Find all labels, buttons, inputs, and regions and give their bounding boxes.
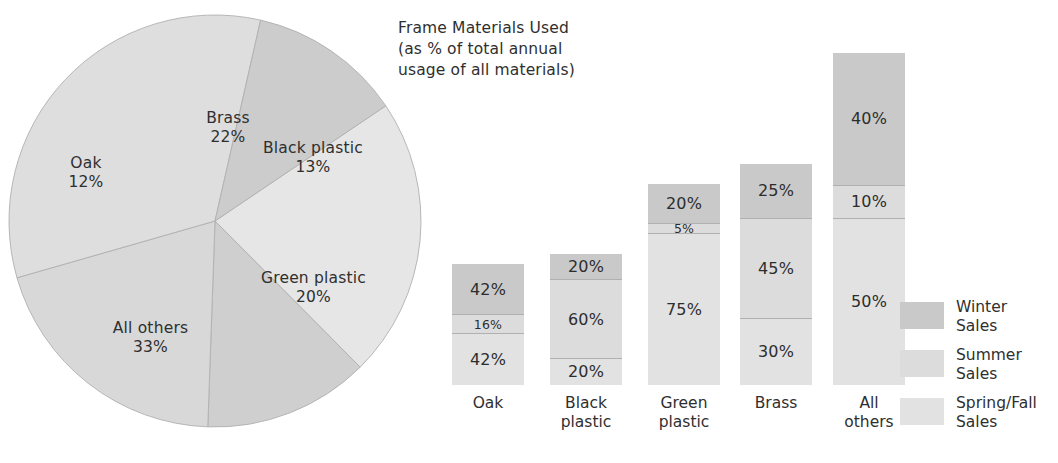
- bar-segment-summer-sales[interactable]: 10%: [833, 186, 905, 219]
- legend-label-springfall: Spring/FallSales: [956, 394, 1037, 432]
- bar-segment-value: 42%: [452, 280, 524, 299]
- legend-item-springfall[interactable]: Spring/FallSales: [900, 396, 1050, 444]
- bar-segment-winter-sales[interactable]: 20%: [550, 254, 622, 280]
- bar-stack: 25%45%30%Brass: [740, 164, 812, 385]
- bar-segment-summer-sales[interactable]: 60%: [550, 280, 622, 358]
- bar-segment-summer-sales[interactable]: 45%: [740, 219, 812, 319]
- bar-segment-value: 42%: [452, 350, 524, 369]
- pie-chart: Brass 22% Black plastic 13% Green plasti…: [8, 14, 422, 428]
- bar-segment-spring-fall-sales[interactable]: 75%: [648, 234, 720, 385]
- bar-segment-value: 30%: [740, 342, 812, 361]
- legend-item-summer[interactable]: SummerSales: [900, 348, 1050, 396]
- chart-title-line-2: (as % of total annual: [398, 39, 668, 60]
- bar-category-label-line: plastic: [638, 413, 730, 432]
- bar-segment-value: 45%: [740, 259, 812, 278]
- bar-segment-value: 25%: [740, 181, 812, 200]
- pie-label-black-plastic: Black plastic 13%: [248, 139, 378, 177]
- pie-label-green-plastic-value: 20%: [246, 288, 381, 307]
- bar-category-label: Oak: [442, 394, 534, 413]
- bar-category-label-line: Green: [638, 394, 730, 413]
- chart-legend: WinterSalesSummerSalesSpring/FallSales: [900, 300, 1050, 444]
- legend-label-line: Spring/Fall: [956, 394, 1037, 413]
- pie-label-oak: Oak 12%: [46, 154, 126, 192]
- chart-canvas: Brass 22% Black plastic 13% Green plasti…: [0, 0, 1058, 463]
- chart-title-line-1: Frame Materials Used: [398, 18, 668, 39]
- legend-label-line: Summer: [956, 346, 1022, 365]
- pie-label-oak-name: Oak: [70, 154, 101, 172]
- bar-stack: 40%10%50%Allothers: [833, 53, 905, 385]
- bar-segment-summer-sales[interactable]: 5%: [648, 224, 720, 234]
- bar-category-label-line: Oak: [442, 394, 534, 413]
- pie-label-all-others: All others 33%: [88, 319, 213, 357]
- bar-category-label-line: Black: [540, 394, 632, 413]
- bar-segment-value: 20%: [648, 194, 720, 213]
- legend-swatch-springfall: [900, 398, 944, 425]
- bar-segment-winter-sales[interactable]: 40%: [833, 53, 905, 186]
- legend-label-line: Sales: [956, 317, 1007, 336]
- pie-label-all-others-name: All others: [113, 319, 189, 337]
- bar-segment-winter-sales[interactable]: 25%: [740, 164, 812, 219]
- bar-segment-spring-fall-sales[interactable]: 30%: [740, 319, 812, 385]
- bar-stack: 20%5%75%Greenplastic: [648, 184, 720, 385]
- legend-swatch-winter: [900, 302, 944, 329]
- bar-segment-value: 50%: [833, 292, 905, 311]
- pie-chart-svg: [8, 14, 422, 428]
- bar-segment-value: 16%: [452, 317, 524, 332]
- bar-segment-value: 60%: [550, 310, 622, 329]
- bar-category-label: Brass: [730, 394, 822, 413]
- bar-category-label: Blackplastic: [540, 394, 632, 432]
- stacked-bar-chart: 42%16%42%Oak20%60%20%Blackplastic20%5%75…: [440, 60, 860, 455]
- pie-label-all-others-value: 33%: [88, 338, 213, 357]
- bar-category-label-line: plastic: [540, 413, 632, 432]
- bar-segment-winter-sales[interactable]: 20%: [648, 184, 720, 224]
- legend-label-summer: SummerSales: [956, 346, 1022, 384]
- legend-label-line: Sales: [956, 365, 1022, 384]
- bar-category-label-line: Brass: [730, 394, 822, 413]
- pie-label-green-plastic-name: Green plastic: [261, 269, 366, 287]
- legend-label-line: Sales: [956, 413, 1037, 432]
- bar-stack: 42%16%42%Oak: [452, 264, 524, 385]
- bar-segment-spring-fall-sales[interactable]: 20%: [550, 359, 622, 385]
- pie-label-green-plastic: Green plastic 20%: [246, 269, 381, 307]
- bar-segment-value: 20%: [550, 362, 622, 381]
- bar-stack: 20%60%20%Blackplastic: [550, 254, 622, 385]
- bar-segment-spring-fall-sales[interactable]: 42%: [452, 334, 524, 385]
- pie-label-black-plastic-value: 13%: [248, 158, 378, 177]
- pie-label-brass-name: Brass: [206, 109, 250, 127]
- legend-item-winter[interactable]: WinterSales: [900, 300, 1050, 348]
- bar-category-label: Greenplastic: [638, 394, 730, 432]
- legend-label-winter: WinterSales: [956, 298, 1007, 336]
- pie-label-black-plastic-name: Black plastic: [263, 139, 363, 157]
- bar-segment-value: 10%: [833, 192, 905, 211]
- bar-segment-value: 40%: [833, 109, 905, 128]
- bar-segment-value: 75%: [648, 300, 720, 319]
- bar-segment-value: 20%: [550, 257, 622, 276]
- legend-swatch-summer: [900, 350, 944, 377]
- bar-segment-spring-fall-sales[interactable]: 50%: [833, 219, 905, 385]
- bar-segment-winter-sales[interactable]: 42%: [452, 264, 524, 315]
- legend-label-line: Winter: [956, 298, 1007, 317]
- pie-label-oak-value: 12%: [46, 173, 126, 192]
- bar-segment-summer-sales[interactable]: 16%: [452, 315, 524, 334]
